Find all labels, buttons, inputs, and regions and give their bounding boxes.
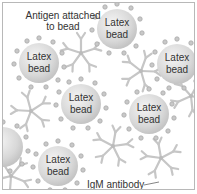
bead-label: Latexbead <box>19 51 59 75</box>
bead-label: Latexbead <box>157 52 195 76</box>
bead-label: Latexbead <box>129 102 169 126</box>
bead-label: Latexbead <box>97 17 137 41</box>
bead-label: Latexbead <box>38 154 78 178</box>
igm-antibody-label: IgM antibody <box>87 179 144 190</box>
bead-label: Latexbead <box>61 92 101 116</box>
diagram-frame: Antigen attached to bead Latexbead Latex… <box>2 2 195 190</box>
